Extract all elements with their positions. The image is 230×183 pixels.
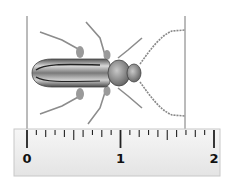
antenna-lower	[140, 82, 185, 116]
beetle-ruler-diagram: 0 1 2	[0, 0, 230, 183]
beetle-head	[127, 64, 141, 82]
ruler-label-0: 0	[22, 151, 31, 166]
ruler: 0 1 2	[14, 129, 220, 176]
ruler-label-1: 1	[116, 151, 125, 166]
antenna-upper	[140, 30, 185, 64]
beetle-illustration	[32, 22, 185, 124]
ruler-label-2: 2	[209, 151, 218, 166]
beetle-body	[32, 59, 110, 87]
